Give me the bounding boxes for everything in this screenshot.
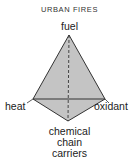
tetrahedron-face-left — [33, 35, 69, 121]
vertex-label-fuel: fuel — [0, 21, 139, 32]
heat-pointer — [27, 99, 33, 103]
vertex-label-chemical-chain-carriers: chemical chain carriers — [0, 126, 139, 159]
vertex-label-heat: heat — [5, 101, 25, 112]
vertex-label-oxidant: oxidant — [94, 101, 128, 112]
label-line-3: carriers — [0, 148, 139, 159]
